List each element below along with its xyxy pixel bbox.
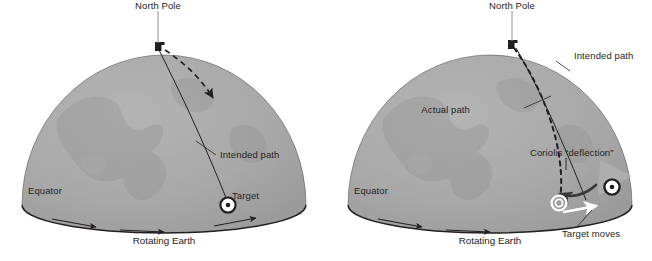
- north-pole-label-left: North Pole: [135, 0, 181, 11]
- ring-target-moved-right: [551, 195, 568, 212]
- caption-right: Rotating Earth: [459, 235, 522, 246]
- figure-svg: North Pole Intended path Equator Target …: [0, 0, 652, 261]
- coriolis-deflection-label-right: Coriolis “deflection”: [530, 147, 613, 158]
- north-pole-label-right: North Pole: [489, 0, 535, 11]
- target-label-left: Target: [232, 190, 259, 201]
- target-moves-label-right: Target moves: [562, 228, 620, 239]
- equator-label-left: Equator: [28, 185, 62, 196]
- equator-label-right: Equator: [354, 185, 388, 196]
- coriolis-figure: North Pole Intended path Equator Target …: [0, 0, 652, 261]
- bullseye-target-original-right: [604, 179, 621, 196]
- intended-path-label-left: Intended path: [220, 149, 279, 160]
- intended-path-label-right: Intended path: [574, 50, 633, 61]
- actual-path-label-right: Actual path: [421, 104, 470, 115]
- caption-left: Rotating Earth: [133, 235, 196, 246]
